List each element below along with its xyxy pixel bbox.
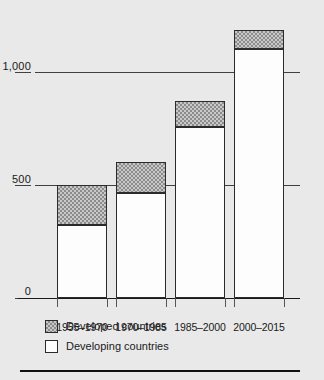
legend-item-developed[interactable]: Developed countries: [45, 318, 275, 335]
bar-segment-developed: [116, 162, 166, 193]
ytick-rule-1000: [15, 72, 31, 73]
ytick-label-0: 0: [25, 286, 31, 297]
xtick: [107, 298, 108, 307]
ytick-label-500: 500: [12, 174, 31, 185]
legend-label-developing: Developing countries: [66, 340, 169, 353]
legend-swatch-developed-icon: [45, 320, 58, 333]
xtick: [166, 298, 167, 307]
bar-segment-developed: [57, 185, 107, 225]
bar-segment-developing: [175, 127, 225, 298]
bar-segment-developing: [234, 49, 284, 298]
gridline-stub-500: [288, 185, 300, 186]
xtick: [225, 298, 226, 307]
bar-segment-developing: [57, 225, 107, 298]
x-axis-line: [18, 298, 300, 299]
ytick-label-1000: 1,000: [2, 61, 31, 72]
xtick: [284, 298, 285, 307]
xtick: [116, 298, 117, 307]
bar-segment-developing: [116, 193, 166, 298]
xtick: [175, 298, 176, 307]
bar-segment-developed: [234, 30, 284, 49]
figure-bottom-rule: [20, 370, 300, 372]
legend-swatch-developing-icon: [45, 340, 58, 353]
plot-area: 1,000 500 0: [35, 20, 300, 298]
xtick: [234, 298, 235, 307]
gridline-stub-1000: [288, 72, 300, 73]
xtick: [57, 298, 58, 307]
chart-figure: 1,000 500 0: [0, 0, 324, 380]
bar-segment-developed: [175, 101, 225, 127]
legend-label-developed: Developed countries: [66, 320, 166, 333]
chart-legend: Developed countries Developing countries: [45, 318, 275, 358]
legend-item-developing[interactable]: Developing countries: [45, 338, 275, 355]
ytick-rule-500: [15, 185, 31, 186]
